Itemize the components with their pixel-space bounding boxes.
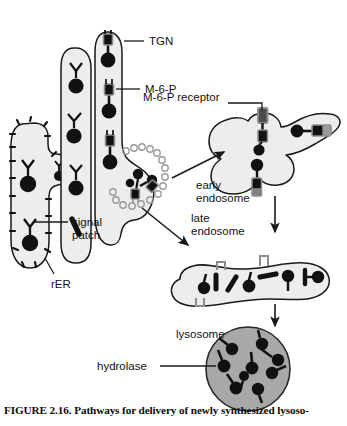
label-m6p-receptor: M-6-P receptor (143, 91, 220, 103)
figure-caption: FIGURE 2.16. Pathways for delivery of ne… (0, 404, 347, 417)
label-late-endosome-line1: late (191, 212, 210, 224)
label-rer: rER (51, 278, 71, 290)
organelle-late-endosome (171, 256, 329, 306)
label-hydrolase: hydrolase (97, 360, 147, 372)
arrow-tgn-to-late-endosome (142, 208, 188, 245)
figure-container: TGN M-6-P M-6-P receptor early endosome … (0, 0, 347, 426)
pathway-diagram: TGN M-6-P M-6-P receptor early endosome … (0, 0, 347, 426)
label-late-endosome-line2: endosome (191, 225, 245, 237)
empty-receptor (260, 256, 268, 266)
hydrolase-fragment (260, 274, 276, 277)
organelle-early-endosome (209, 108, 340, 196)
organelle-tgn (95, 30, 168, 245)
leader-m6p-receptor (228, 103, 262, 110)
label-signal-patch-line2: patch (72, 229, 100, 241)
label-tgn: TGN (149, 35, 173, 47)
label-signal-patch-line1: signal (72, 216, 102, 228)
leader-rer (45, 258, 54, 274)
label-early-endosome-line1: early (196, 179, 221, 191)
label-early-endosome-line2: endosome (196, 192, 250, 204)
label-lysosome: lysosome (176, 328, 225, 340)
